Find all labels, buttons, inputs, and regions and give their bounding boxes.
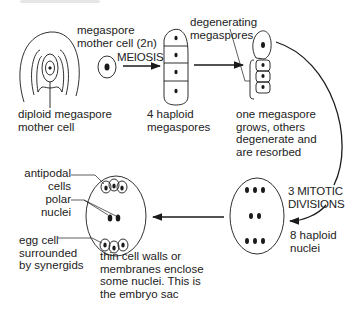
- label-degenerating: degenerating megaspores: [190, 16, 257, 41]
- label-polar: polar nuclei: [19, 193, 71, 218]
- label-one-grows: one megaspore grows, others degenerate a…: [236, 108, 317, 158]
- label-four-haploid: 4 haploid megaspores: [147, 108, 210, 133]
- four-megaspores: [164, 29, 188, 105]
- megaspore-mother-cell: [98, 56, 116, 78]
- eight-nuclei-cell: [230, 178, 284, 254]
- label-eight-haploid: 8 haploid nuclei: [290, 229, 337, 254]
- label-meiosis: MEIOSIS: [117, 51, 164, 64]
- label-antipodal: antipodal cells: [19, 167, 71, 192]
- label-egg-cell: egg cell surrounded by synergids: [19, 234, 84, 272]
- ovule-illustration: [20, 32, 79, 108]
- label-mitotic-divisions: 3 MITOTIC DIVISIONS: [288, 185, 344, 210]
- label-diploid-mother-cell: diploid megaspore mother cell: [18, 108, 112, 133]
- label-megaspore-mother-cell: megaspore mother cell (2n): [77, 24, 157, 49]
- label-thin-walls: thin cell walls or membranes enclose som…: [100, 250, 204, 300]
